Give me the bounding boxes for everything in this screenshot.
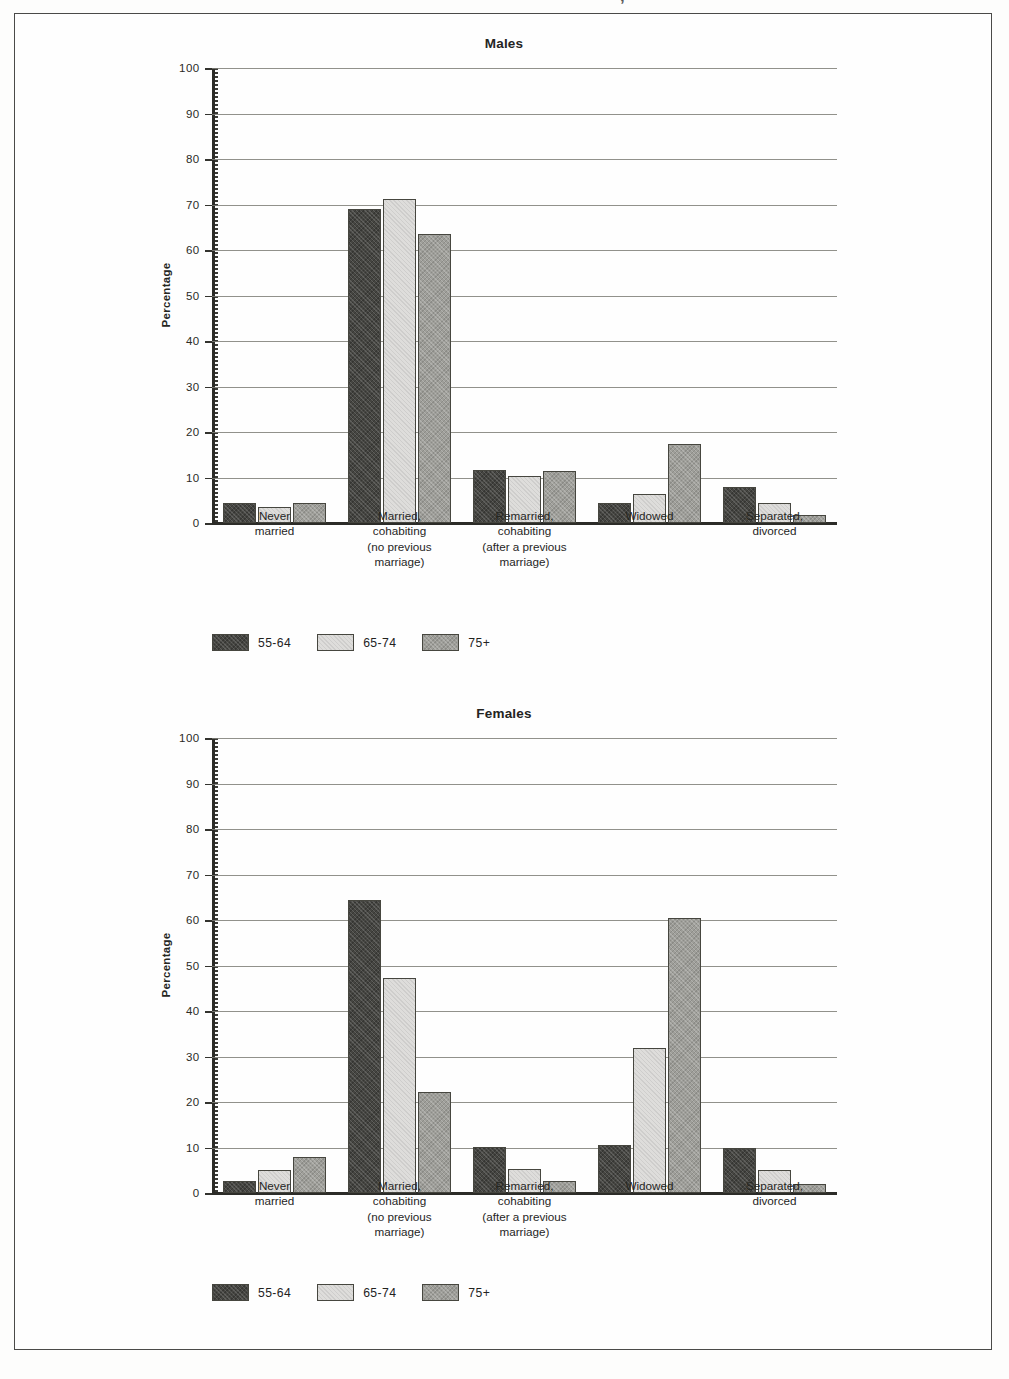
bar-group (587, 68, 712, 523)
y-axis-tick-label: 40 (186, 335, 200, 347)
bar-group (337, 68, 462, 523)
y-axis-tick-label: 0 (193, 517, 200, 529)
chart-title-females: Females (15, 692, 993, 724)
legend-swatch (212, 1284, 249, 1301)
bar-group-bars (587, 68, 712, 523)
y-axis-tick (205, 1193, 212, 1195)
y-axis-tick (205, 784, 212, 786)
y-axis-tick-label: 60 (186, 914, 200, 926)
y-axis-tick-label: 70 (186, 869, 200, 881)
y-axis-tick (205, 1148, 212, 1150)
y-axis-tick-label: 100 (179, 62, 199, 74)
y-axis-tick (205, 875, 212, 877)
y-axis-tick-label: 80 (186, 823, 200, 835)
legend-item[interactable]: 75+ (422, 634, 490, 651)
y-axis-tick (205, 68, 212, 70)
legend-label: 55-64 (258, 636, 291, 650)
bar[interactable] (668, 918, 701, 1193)
bar[interactable] (348, 900, 381, 1193)
x-axis-category-label: Widowed (587, 1178, 712, 1240)
x-axis-category-labels-females: NevermarriedMarried,cohabiting(no previo… (212, 1178, 837, 1240)
plot-area-males: 0102030405060708090100 (212, 68, 837, 523)
bar-group (712, 68, 837, 523)
y-axis-tick-label: 30 (186, 1051, 200, 1063)
x-axis-category-label: Separated,divorced (712, 1178, 837, 1240)
y-axis-tick-label: 40 (186, 1005, 200, 1017)
chart-title-males: Males (15, 22, 993, 54)
y-axis-tick-label: 70 (186, 199, 200, 211)
y-axis-tick-label: 80 (186, 153, 200, 165)
bar[interactable] (418, 234, 451, 523)
y-axis-tick-label: 50 (186, 290, 200, 302)
y-axis-tick (205, 296, 212, 298)
y-axis-tick-label: 90 (186, 108, 200, 120)
y-axis-tick (205, 387, 212, 389)
legend-females: 55-6465-7475+ (212, 1284, 490, 1301)
y-axis-tick-label: 100 (179, 732, 199, 744)
plot-wrap-males: Percentage 0102030405060708090100 (15, 60, 993, 530)
bar[interactable] (633, 1048, 666, 1193)
legend-swatch (317, 1284, 354, 1301)
bar-groups-females (212, 738, 837, 1193)
y-axis-tick (205, 478, 212, 480)
bar-group-bars (462, 68, 587, 523)
legend-item[interactable]: 75+ (422, 1284, 490, 1301)
legend-label: 75+ (468, 1286, 490, 1300)
y-axis-tick (205, 829, 212, 831)
legend-item[interactable]: 55-64 (212, 1284, 291, 1301)
legend-swatch (212, 634, 249, 651)
y-axis-tick-label: 30 (186, 381, 200, 393)
bar-group (337, 738, 462, 1193)
x-axis-category-label: Married,cohabiting(no previousmarriage) (337, 1178, 462, 1240)
legend-males: 55-6465-7475+ (212, 634, 490, 651)
legend-label: 65-74 (363, 636, 396, 650)
legend-item[interactable]: 65-74 (317, 1284, 396, 1301)
y-axis-tick-label: 10 (186, 1142, 200, 1154)
bar-group-bars (337, 738, 462, 1193)
legend-label: 65-74 (363, 1286, 396, 1300)
y-axis-tick (205, 738, 212, 740)
y-axis-tick-label: 10 (186, 472, 200, 484)
legend-item[interactable]: 55-64 (212, 634, 291, 651)
bar[interactable] (383, 199, 416, 523)
y-axis-tick (205, 1057, 212, 1059)
y-axis-tick-label: 90 (186, 778, 200, 790)
scanned-page: ’ ,, Males Percentage 010203040506070809… (0, 0, 1009, 1379)
legend-label: 75+ (468, 636, 490, 650)
bar-group (587, 738, 712, 1193)
bar-group (212, 738, 337, 1193)
y-axis-tick (205, 966, 212, 968)
legend-item[interactable]: 65-74 (317, 634, 396, 651)
bar-group (712, 738, 837, 1193)
bar-group-bars (462, 738, 587, 1193)
bar-group-bars (337, 68, 462, 523)
bar[interactable] (348, 209, 381, 523)
bar-groups-males (212, 68, 837, 523)
x-axis-category-label: Remarried,cohabiting(after a previousmar… (462, 1178, 587, 1240)
y-axis-label-females: Percentage (160, 932, 172, 997)
y-axis-tick-label: 0 (193, 1187, 200, 1199)
bar-group-bars (587, 738, 712, 1193)
y-axis-tick (205, 920, 212, 922)
y-axis-tick (205, 1011, 212, 1013)
x-axis-category-label: Remarried,cohabiting(after a previousmar… (462, 508, 587, 570)
chart-panel-males: Males Percentage 0102030405060708090100 … (15, 22, 993, 692)
bar-group-bars (712, 68, 837, 523)
bar[interactable] (383, 978, 416, 1193)
y-axis-tick (205, 523, 212, 525)
y-axis-tick-label: 20 (186, 1096, 200, 1108)
bar-group (212, 68, 337, 523)
plot-wrap-females: Percentage 0102030405060708090100 (15, 730, 993, 1200)
legend-swatch (422, 634, 459, 651)
x-axis-category-label: Married,cohabiting(no previousmarriage) (337, 508, 462, 570)
y-axis-tick (205, 159, 212, 161)
x-axis-category-label: Nevermarried (212, 508, 337, 570)
plot-area-females: 0102030405060708090100 (212, 738, 837, 1193)
y-axis-tick (205, 250, 212, 252)
bar-group-bars (212, 738, 337, 1193)
y-axis-label-males: Percentage (160, 262, 172, 327)
bar-group-bars (712, 738, 837, 1193)
x-axis-category-label: Nevermarried (212, 1178, 337, 1240)
y-axis-tick (205, 114, 212, 116)
y-axis-tick-label: 20 (186, 426, 200, 438)
